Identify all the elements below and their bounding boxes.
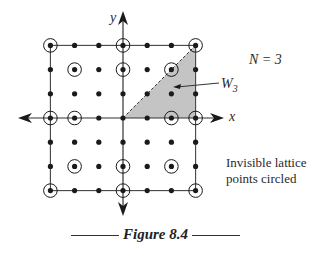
lattice-point xyxy=(169,164,174,169)
lattice-point xyxy=(169,67,174,72)
lattice-point xyxy=(145,91,150,96)
lattice-point xyxy=(96,67,101,72)
region-label-subscript: 3 xyxy=(233,83,238,94)
lattice-point xyxy=(96,115,101,120)
note-line-1: Invisible lattice xyxy=(226,155,307,171)
lattice-point xyxy=(96,43,101,48)
lattice-point xyxy=(72,91,77,96)
x-axis-label: x xyxy=(229,109,235,125)
lattice-point xyxy=(169,43,174,48)
lattice-point xyxy=(120,140,125,145)
lattice-point xyxy=(72,115,77,120)
lattice-point xyxy=(193,67,198,72)
caption-rule-left xyxy=(71,235,119,236)
lattice-point xyxy=(145,67,150,72)
lattice-point xyxy=(145,43,150,48)
lattice-point xyxy=(120,188,125,193)
region-label: W3 xyxy=(221,76,238,94)
lattice-point xyxy=(72,140,77,145)
lattice-point xyxy=(48,140,53,145)
lattice-point xyxy=(72,67,77,72)
lattice-point xyxy=(48,188,53,193)
region-label-main: W xyxy=(221,76,233,91)
lattice-point xyxy=(96,91,101,96)
lattice-point xyxy=(48,91,53,96)
figure-caption: Figure 8.4 xyxy=(0,226,311,243)
lattice-point xyxy=(193,91,198,96)
lattice-point xyxy=(72,188,77,193)
y-axis-label: y xyxy=(110,10,116,26)
lattice-point xyxy=(48,115,53,120)
lattice-point xyxy=(145,140,150,145)
lattice-point xyxy=(193,188,198,193)
lattice-point xyxy=(193,115,198,120)
lattice-point xyxy=(193,140,198,145)
lattice-point xyxy=(169,188,174,193)
lattice-point xyxy=(120,91,125,96)
lattice-point xyxy=(193,43,198,48)
lattice-point xyxy=(120,115,125,120)
caption-rule-right xyxy=(192,235,240,236)
lattice-point xyxy=(169,91,174,96)
lattice-point xyxy=(48,164,53,169)
lattice-point xyxy=(120,67,125,72)
lattice-point xyxy=(48,67,53,72)
lattice-point xyxy=(169,115,174,120)
lattice-point xyxy=(72,43,77,48)
lattice-point xyxy=(193,164,198,169)
lattice-diagram xyxy=(0,0,311,261)
n-label: N = 3 xyxy=(249,52,282,68)
lattice-point xyxy=(96,188,101,193)
lattice-point xyxy=(48,43,53,48)
lattice-point xyxy=(169,140,174,145)
lattice-point xyxy=(145,115,150,120)
lattice-point xyxy=(96,140,101,145)
lattice-point xyxy=(120,164,125,169)
lattice-point xyxy=(72,164,77,169)
invisible-points-note: Invisible lattice points circled xyxy=(226,155,307,187)
caption-text: Figure 8.4 xyxy=(123,226,188,242)
lattice-point xyxy=(96,164,101,169)
note-line-2: points circled xyxy=(226,171,307,187)
lattice-point xyxy=(120,43,125,48)
lattice-point xyxy=(145,164,150,169)
lattice-point xyxy=(145,188,150,193)
